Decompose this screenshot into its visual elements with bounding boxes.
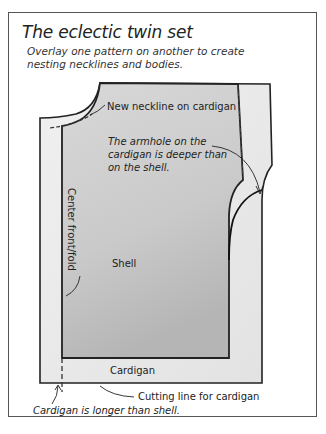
cutting-line-leader-arrow xyxy=(100,386,134,397)
new-neckline-label: New neckline on cardigan xyxy=(107,101,236,112)
pattern-diagram xyxy=(0,0,326,434)
center-front-fold-label: Center front/fold xyxy=(66,188,77,271)
cutting-line-label: Cutting line for cardigan xyxy=(138,391,259,402)
longer-leader-arrow xyxy=(52,386,58,404)
shell-piece xyxy=(62,83,243,358)
armhole-note-label: The armhole on the cardigan is deeper th… xyxy=(108,135,228,174)
cardigan-longer-label: Cardigan is longer than shell. xyxy=(33,405,180,416)
cardigan-label: Cardigan xyxy=(110,365,155,376)
shell-label: Shell xyxy=(112,258,136,269)
